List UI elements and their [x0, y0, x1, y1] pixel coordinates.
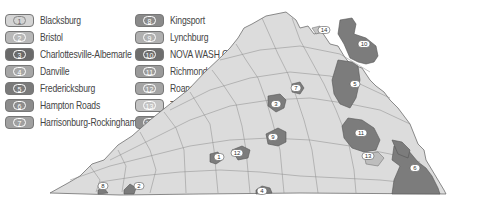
- svg-text:11: 11: [358, 130, 365, 136]
- marker-12: 12: [231, 150, 243, 157]
- virginia-map: 14 10 5 7 3 9 12 1 4 11 13 6 8 2: [0, 0, 486, 204]
- marker-5: 5: [350, 81, 360, 88]
- svg-text:10: 10: [361, 41, 368, 47]
- marker-6: 6: [410, 165, 420, 172]
- svg-text:13: 13: [365, 153, 372, 159]
- marker-1: 1: [214, 154, 224, 161]
- marker-8: 8: [98, 183, 108, 190]
- marker-11: 11: [355, 130, 367, 137]
- svg-text:12: 12: [234, 150, 241, 156]
- marker-2: 2: [134, 183, 144, 190]
- marker-7: 7: [291, 85, 301, 92]
- svg-text:14: 14: [321, 27, 328, 33]
- marker-14: 14: [318, 27, 330, 34]
- marker-3: 3: [271, 101, 281, 108]
- marker-10: 10: [358, 41, 370, 48]
- marker-4: 4: [257, 188, 267, 195]
- marker-9: 9: [268, 134, 278, 141]
- marker-13: 13: [362, 153, 374, 160]
